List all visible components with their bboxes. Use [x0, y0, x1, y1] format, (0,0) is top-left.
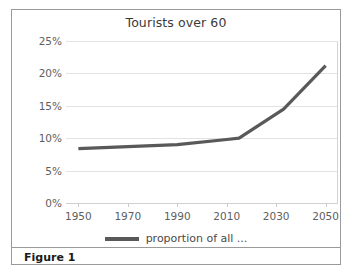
y-tick-label-20: 20% — [18, 67, 62, 79]
plot-area — [66, 41, 338, 203]
x-tick-mark-2010 — [227, 203, 228, 207]
x-tick-mark-1950 — [78, 203, 79, 207]
caption-divider — [12, 247, 340, 248]
x-tick-label-2050: 2050 — [301, 210, 351, 222]
x-tick-mark-2050 — [326, 203, 327, 207]
y-tick-label-15: 15% — [18, 100, 62, 112]
x-tick-mark-2030 — [276, 203, 277, 207]
x-tick-label-2030: 2030 — [251, 210, 301, 222]
y-tick-label-10: 10% — [18, 132, 62, 144]
x-tick-mark-1990 — [177, 203, 178, 207]
y-axis-tick-labels: 0%5%10%15%20%25% — [16, 41, 62, 203]
figure-caption: Figure 1 — [24, 251, 75, 264]
x-tick-label-2010: 2010 — [202, 210, 252, 222]
x-axis-tick-marks — [66, 203, 338, 208]
chart-legend: proportion of all ... — [12, 232, 340, 245]
legend-label: proportion of all ... — [146, 232, 248, 245]
chart-region: Tourists over 60 0%5%10%15%20%25% 195019… — [12, 10, 340, 238]
plot-border-right — [337, 41, 338, 204]
figure-frame: Tourists over 60 0%5%10%15%20%25% 195019… — [11, 9, 341, 265]
x-tick-label-1990: 1990 — [152, 210, 202, 222]
x-tick-label-1950: 1950 — [53, 210, 103, 222]
x-tick-mark-1970 — [128, 203, 129, 207]
series-line-proportion-of-all — [66, 41, 338, 203]
y-tick-label-0: 0% — [18, 197, 62, 209]
x-axis-tick-labels: 195019701990201020302050 — [66, 210, 338, 226]
y-tick-label-25: 25% — [18, 35, 62, 47]
chart-title: Tourists over 60 — [12, 15, 340, 30]
legend-line-swatch-icon — [105, 237, 139, 241]
x-tick-label-1970: 1970 — [103, 210, 153, 222]
y-tick-label-5: 5% — [18, 165, 62, 177]
